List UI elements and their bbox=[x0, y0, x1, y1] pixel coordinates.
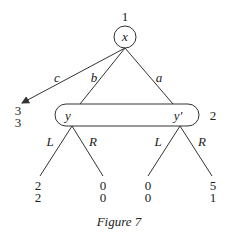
edge-y-R bbox=[72, 126, 103, 176]
edge-label-y-R: R bbox=[88, 134, 97, 149]
edge-label-y-L: L bbox=[45, 134, 53, 149]
root-node-label: x bbox=[121, 29, 128, 44]
payoff-y-prime-L-player2: 0 bbox=[145, 190, 152, 205]
information-set-player-label: 2 bbox=[210, 108, 217, 123]
edge-b bbox=[80, 48, 125, 104]
payoff-y-R-player2: 0 bbox=[100, 190, 107, 205]
edge-label-y-prime-R: R bbox=[197, 134, 206, 149]
node-y-prime-label: y' bbox=[172, 108, 183, 123]
edge-label-a: a bbox=[156, 70, 163, 85]
root-node: x bbox=[114, 26, 136, 48]
payoff-y-L-player2: 2 bbox=[35, 190, 42, 205]
edge-y-L bbox=[40, 126, 72, 176]
game-tree-diagram: 1 x c b a 3 3 y y' 2 L R 2 2 0 0 L R 0 0… bbox=[0, 0, 229, 235]
edge-a bbox=[125, 48, 173, 104]
root-player-label: 1 bbox=[122, 9, 129, 24]
edge-label-c: c bbox=[54, 70, 60, 85]
payoff-y-prime-R-player2: 1 bbox=[210, 190, 217, 205]
edge-y-prime-L bbox=[148, 126, 180, 176]
edge-label-y-prime-L: L bbox=[153, 134, 161, 149]
figure-caption: Figure 7 bbox=[96, 214, 142, 229]
payoff-c-player2: 3 bbox=[15, 115, 22, 130]
node-y-label: y bbox=[63, 108, 71, 123]
edge-c-arrow bbox=[22, 48, 125, 103]
edge-y-prime-R bbox=[180, 126, 212, 176]
edge-label-b: b bbox=[91, 70, 98, 85]
